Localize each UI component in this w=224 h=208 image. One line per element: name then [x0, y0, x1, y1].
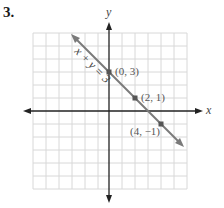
point-label-0-3: (0, 3) — [115, 65, 139, 78]
coordinate-plane: y x (0, 3) (2, 1) (4, −1) x + y = 3 — [0, 0, 224, 208]
point-2-1 — [133, 96, 138, 101]
x-axis-label: x — [205, 103, 212, 117]
x-axis-right-arrow-icon — [195, 108, 203, 114]
equation-label: x + y = 3 — [71, 44, 113, 86]
point-label-2-1: (2, 1) — [141, 91, 165, 104]
y-axis-label: y — [105, 5, 112, 19]
y-axis-down-arrow-icon — [106, 195, 112, 203]
y-axis-up-arrow-icon — [106, 22, 112, 30]
x-axis-left-arrow-icon — [23, 108, 31, 114]
point-label-4-neg1: (4, −1) — [130, 125, 160, 138]
